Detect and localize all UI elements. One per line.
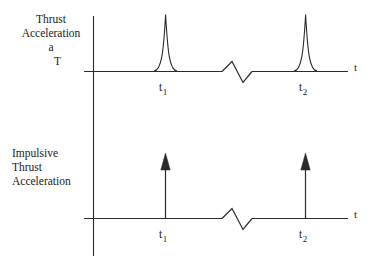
top-y-axis-label: Thrust Acceleration a T xyxy=(8,12,94,68)
top-tick-t2-base: t xyxy=(299,81,302,93)
thrust-symbol-subscript: T xyxy=(8,54,94,68)
bottom-y-axis-label-line-2: Thrust xyxy=(12,161,42,173)
top-y-axis-label-line-1: Thrust xyxy=(36,13,66,25)
bottom-tick-t2-base: t xyxy=(299,228,302,240)
top-tick-t1-subscript: 1 xyxy=(163,87,168,97)
impulse-arrowhead-t1 xyxy=(161,153,170,170)
top-x-axis-name: t xyxy=(354,61,357,74)
bottom-tick-label-t1: t1 xyxy=(159,227,167,241)
thrust-acceleration-figure: Thrust Acceleration a T Impulsive Thrust… xyxy=(0,0,374,266)
panel-continuous-thrust xyxy=(84,15,348,134)
bottom-y-axis-label-line-3: Acceleration xyxy=(12,175,71,187)
top-tick-label-t2: t2 xyxy=(299,80,307,94)
top-pulse-t1 xyxy=(154,15,177,72)
bottom-tick-label-t2: t2 xyxy=(299,227,307,241)
top-tick-t2-subscript: 2 xyxy=(303,87,308,97)
top-y-axis-label-line-2: Acceleration xyxy=(22,27,81,39)
top-tick-t1-base: t xyxy=(159,81,162,93)
bottom-x-axis-name: t xyxy=(354,208,357,221)
top-tick-label-t1: t1 xyxy=(159,80,167,94)
thrust-symbol-base: a xyxy=(8,40,94,54)
bottom-axis-break-icon xyxy=(222,209,252,230)
top-axis-break-icon xyxy=(222,62,252,83)
bottom-tick-t2-subscript: 2 xyxy=(303,234,308,244)
bottom-tick-t1-subscript: 1 xyxy=(163,234,168,244)
panel-impulsive-thrust xyxy=(84,133,348,256)
bottom-y-axis-label: Impulsive Thrust Acceleration xyxy=(8,146,94,188)
bottom-y-axis-label-line-1: Impulsive xyxy=(12,147,58,159)
impulse-arrowhead-t2 xyxy=(301,153,310,170)
top-pulse-t2 xyxy=(294,15,317,72)
bottom-tick-t1-base: t xyxy=(159,228,162,240)
